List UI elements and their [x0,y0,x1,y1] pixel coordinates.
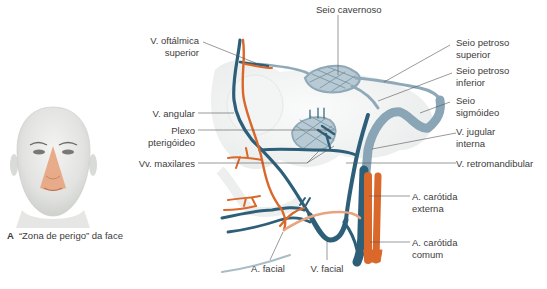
face-illustration [10,107,97,228]
label-seio-cavernoso: Seio cavernoso [316,4,381,16]
label-v-retromandibular: V. retromandibular [456,158,533,170]
label-plexo-pterigoideo: Plexo pterigóideo [135,125,195,148]
label-seio-petroso-superior: Seio petroso superior [456,37,509,60]
panel-a-caption: A“Zona de perigo” da face [7,230,123,241]
label-seio-petroso-inferior: Seio petroso inferior [456,65,509,88]
label-v-oftalmica-superior: V. oftálmica superior [143,35,199,58]
panel-letter: A [7,230,14,241]
label-v-facial: V. facial [302,263,352,275]
label-v-jugular-interna: V. jugular interna [456,126,495,149]
label-v-angular: V. angular [140,108,195,120]
panel-caption-text: “Zona de perigo” da face [19,230,123,241]
label-vv-maxilares: Vv. maxilares [125,158,195,170]
label-a-carotida-externa: A. carótida externa [412,191,457,214]
label-a-carotida-comum: A. carótida comum [412,237,457,260]
label-a-facial: A. facial [243,263,293,275]
label-seio-sigmoideo: Seio sigmóideo [456,95,499,118]
